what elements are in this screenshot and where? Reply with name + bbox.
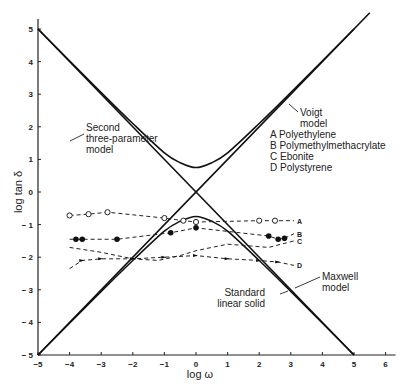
y-tick-label: − 3 — [22, 286, 34, 295]
annotation-text: three-parameter — [86, 133, 158, 144]
legend: A PolyethyleneB PolymethylmethacrylateC … — [270, 129, 386, 173]
arrow-marker — [98, 257, 103, 260]
y-tick-label: − 1 — [22, 221, 34, 230]
filled-circle-marker — [114, 236, 120, 242]
x-tick-label: 1 — [225, 360, 230, 369]
filled-circle-marker — [266, 233, 272, 239]
x-tick-label: 5 — [352, 360, 357, 369]
annotation-standard-linear-solid: Standardlinear solid — [217, 287, 288, 309]
standard-linear-solid-curve — [38, 216, 354, 355]
open-circle-marker — [67, 213, 72, 218]
annotation-leader — [70, 134, 84, 141]
annotation-text: Maxwell — [322, 271, 358, 282]
filled-circle-marker — [168, 230, 174, 236]
y-tick-label: 5 — [29, 25, 34, 34]
y-tick-label: 1 — [29, 155, 34, 164]
x-tick-label: 6 — [383, 360, 388, 369]
series-end-label: D — [297, 262, 302, 269]
annotation-maxwell-model: Maxwellmodel — [295, 271, 358, 293]
series-end-label: A — [297, 218, 302, 225]
annotation-text: Standard — [224, 287, 265, 298]
filled-circle-marker — [79, 236, 85, 242]
series-end-label: B — [297, 231, 302, 238]
x-tick-label: 2 — [257, 360, 262, 369]
x-tick-label: −4 — [65, 360, 75, 369]
y-tick-label: 2 — [29, 123, 34, 132]
filled-circle-marker — [282, 235, 288, 241]
annotation-text: model — [300, 118, 327, 129]
annotation-text: Voigt — [300, 107, 322, 118]
x-tick-label: −3 — [97, 360, 107, 369]
annotation-leader — [280, 291, 288, 294]
legend-entry: C Ebonite — [270, 151, 314, 162]
model-curves — [38, 13, 370, 355]
annotation-leader — [289, 104, 298, 112]
chart: −5−4−3−2−10123456− 5− 4− 3− 2− 1012345 A… — [0, 0, 412, 389]
y-axis-title: log tan δ — [12, 171, 24, 213]
open-circle-marker — [86, 212, 91, 217]
y-tick-label: − 5 — [22, 351, 34, 360]
annotation-leader — [295, 277, 320, 288]
x-tick-label: −5 — [33, 360, 43, 369]
legend-entry: D Polystyrene — [270, 162, 333, 173]
open-circle-marker — [181, 218, 186, 223]
x-axis-title: log ω — [187, 368, 214, 380]
filled-circle-marker — [193, 225, 199, 231]
series-a: A — [67, 210, 302, 225]
y-tick-label: 0 — [29, 188, 34, 197]
annotation-voigt-model: Voigtmodel — [289, 104, 327, 129]
x-tick-label: −1 — [160, 360, 170, 369]
y-tick-label: 3 — [29, 90, 34, 99]
legend-entry: B Polymethylmethacrylate — [270, 140, 386, 151]
annotation-text: model — [322, 282, 349, 293]
x-tick-label: 3 — [289, 360, 294, 369]
filled-circle-marker — [73, 236, 79, 242]
data-series: ABCD — [67, 210, 302, 270]
open-circle-marker — [257, 218, 262, 223]
x-tick-label: 4 — [320, 360, 325, 369]
series-c: C — [70, 238, 302, 261]
filled-circle-marker — [275, 236, 281, 242]
open-circle-marker — [272, 218, 277, 223]
y-tick-label: − 2 — [22, 253, 34, 262]
open-circle-marker — [105, 210, 110, 215]
series-end-label: C — [297, 238, 302, 245]
arrow-marker — [275, 261, 280, 264]
y-tick-label: − 4 — [22, 318, 34, 327]
axes: −5−4−3−2−10123456− 5− 4− 3− 2− 1012345 — [22, 19, 396, 369]
annotation-text: Second — [86, 122, 120, 133]
open-circle-marker — [162, 215, 167, 220]
arrow-marker — [161, 256, 166, 259]
annotation-text: linear solid — [217, 298, 265, 309]
series-line — [70, 228, 294, 239]
legend-entry: A Polyethylene — [270, 129, 337, 140]
y-tick-label: 4 — [29, 58, 34, 67]
annotation-second-three-parameter-model: Secondthree-parametermodel — [70, 122, 158, 155]
annotation-text: model — [86, 144, 113, 155]
arrow-marker — [79, 259, 84, 262]
arrow-marker — [225, 257, 230, 260]
x-tick-label: −2 — [128, 360, 138, 369]
series-b: B — [70, 225, 302, 242]
open-circle-marker — [193, 219, 198, 224]
arrow-marker — [193, 254, 198, 257]
